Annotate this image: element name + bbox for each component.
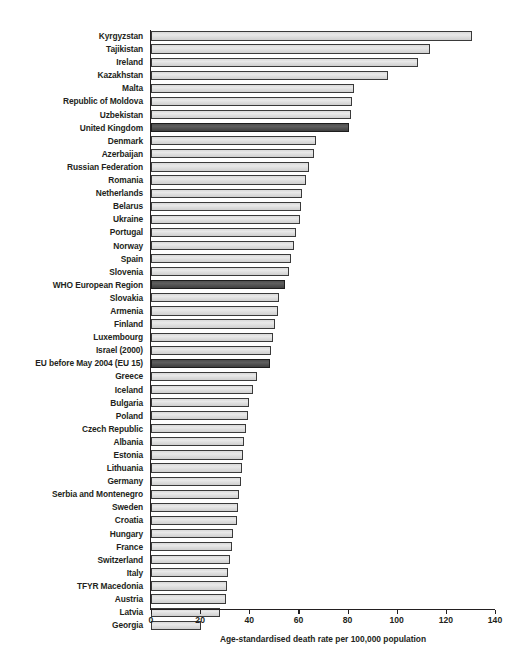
x-tick-label: 40	[245, 615, 255, 625]
category-label: United Kingdom	[0, 122, 147, 135]
category-label: Latvia	[0, 606, 147, 619]
category-label: Malta	[0, 82, 147, 95]
category-label: Luxembourg	[0, 331, 147, 344]
bar-row	[151, 266, 495, 279]
bar-row	[151, 567, 495, 580]
category-label: Belarus	[0, 200, 147, 213]
bar	[151, 411, 248, 420]
category-label: Slovenia	[0, 266, 147, 279]
bar	[151, 581, 227, 590]
category-label: Czech Republic	[0, 423, 147, 436]
bar-row	[151, 174, 495, 187]
bar	[151, 490, 239, 499]
bar-row	[151, 370, 495, 383]
bar-row	[151, 462, 495, 475]
bar-row	[151, 95, 495, 108]
category-label: Ireland	[0, 56, 147, 69]
bar-row	[151, 30, 495, 43]
bar-row	[151, 213, 495, 226]
category-label: France	[0, 541, 147, 554]
bar	[151, 149, 314, 158]
category-label: Serbia and Montenegro	[0, 488, 147, 501]
category-label: Russian Federation	[0, 161, 147, 174]
bar-row	[151, 554, 495, 567]
bar	[151, 542, 232, 551]
category-label: Germany	[0, 475, 147, 488]
bar-row	[151, 56, 495, 69]
category-label: Austria	[0, 593, 147, 606]
category-label: Croatia	[0, 514, 147, 527]
x-tick-label: 60	[294, 615, 304, 625]
bar-row	[151, 593, 495, 606]
category-label: Denmark	[0, 135, 147, 148]
bar	[151, 306, 278, 315]
bar-row	[151, 410, 495, 423]
x-tick-mark	[249, 610, 250, 614]
x-tick-label: 0	[149, 615, 154, 625]
bar	[151, 58, 418, 67]
bar-row	[151, 357, 495, 370]
bar	[151, 267, 289, 276]
bar	[151, 136, 316, 145]
bar	[151, 555, 230, 564]
bar-row	[151, 488, 495, 501]
bar	[151, 202, 301, 211]
category-label: Spain	[0, 253, 147, 266]
bar-row	[151, 161, 495, 174]
category-label: Azerbaijan	[0, 148, 147, 161]
bar-row	[151, 331, 495, 344]
bar-row	[151, 69, 495, 82]
category-label: Ukraine	[0, 213, 147, 226]
category-label: TFYR Macedonia	[0, 580, 147, 593]
category-label: Bulgaria	[0, 397, 147, 410]
bar	[151, 463, 242, 472]
bar-row	[151, 384, 495, 397]
bar-row	[151, 305, 495, 318]
bar	[151, 319, 275, 328]
bar-row	[151, 514, 495, 527]
category-label: Finland	[0, 318, 147, 331]
bar-row	[151, 436, 495, 449]
category-axis-labels: KyrgyzstanTajikistanIrelandKazakhstanMal…	[0, 30, 147, 610]
x-tick-label: 80	[343, 615, 353, 625]
category-label: Portugal	[0, 226, 147, 239]
bar-row	[151, 240, 495, 253]
category-label: Uzbekistan	[0, 109, 147, 122]
category-label: Sweden	[0, 501, 147, 514]
bar-row	[151, 501, 495, 514]
bar	[151, 437, 244, 446]
bar-row	[151, 292, 495, 305]
x-tick-mark	[298, 610, 299, 614]
bar	[151, 333, 273, 342]
bar	[151, 175, 306, 184]
bar-row	[151, 318, 495, 331]
bar	[151, 254, 291, 263]
x-tick-mark	[151, 610, 152, 614]
category-label: Albania	[0, 436, 147, 449]
category-label: Romania	[0, 174, 147, 187]
x-axis-title: Age-standardised death rate per 100,000 …	[151, 634, 495, 644]
category-label: Poland	[0, 410, 147, 423]
bar	[151, 477, 241, 486]
bar-row	[151, 82, 495, 95]
bar-rows	[151, 30, 495, 610]
x-axis-ticks: 020406080100120140	[151, 610, 495, 630]
category-label: Republic of Moldova	[0, 95, 147, 108]
bar	[151, 529, 233, 538]
bar-chart: KyrgyzstanTajikistanIrelandKazakhstanMal…	[0, 0, 529, 671]
bar	[151, 44, 430, 53]
category-label: EU before May 2004 (EU 15)	[0, 357, 147, 370]
bar-row	[151, 344, 495, 357]
bar	[151, 293, 279, 302]
bar	[151, 359, 270, 368]
category-label: WHO European Region	[0, 279, 147, 292]
category-label: Estonia	[0, 449, 147, 462]
x-tick-mark	[397, 610, 398, 614]
bar-row	[151, 200, 495, 213]
bar-row	[151, 449, 495, 462]
x-tick-label: 20	[195, 615, 205, 625]
bar-row	[151, 397, 495, 410]
bar	[151, 228, 296, 237]
bar-row	[151, 423, 495, 436]
bar	[151, 424, 246, 433]
